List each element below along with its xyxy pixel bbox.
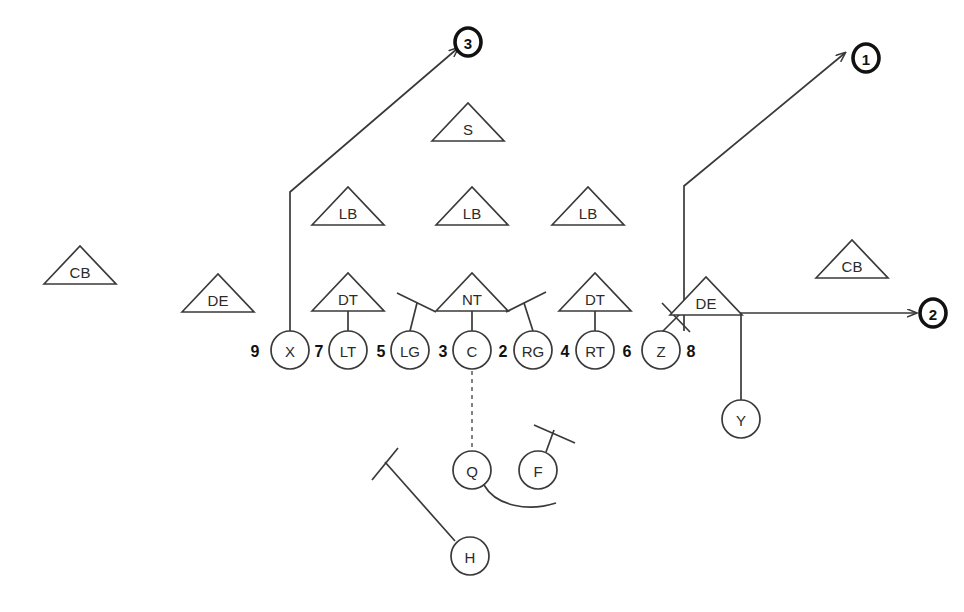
player-label: Q: [466, 463, 478, 480]
offense-right-guard[interactable]: RG: [514, 331, 552, 369]
defense-linebacker-left[interactable]: LB: [312, 187, 384, 225]
gap-number-2: 2: [499, 343, 508, 360]
play-diagram-canvas: CBDEDTNTDTDECBLBLBLBS XLTLGCRGRTZYQFH 97…: [0, 0, 964, 612]
marker-label: 2: [929, 306, 937, 323]
gap-number-7: 7: [315, 343, 324, 360]
player-label: H: [465, 549, 476, 566]
defense-tackle-left[interactable]: DT: [312, 273, 384, 311]
offense-left-tackle[interactable]: LT: [329, 331, 367, 369]
player-label: Y: [736, 412, 746, 429]
block-lt-on-dt: [327, 309, 369, 331]
gap-number-4: 4: [561, 343, 570, 360]
player-label: RG: [522, 343, 545, 360]
offense-z-receiver[interactable]: Z: [642, 331, 680, 369]
offense-x-receiver[interactable]: X: [271, 331, 309, 369]
defender-label: LB: [339, 205, 357, 222]
defender-label: DE: [208, 292, 229, 309]
offense-layer: XLTLGCRGRTZYQFH: [271, 331, 760, 575]
defense-cornerback-right[interactable]: CB: [816, 240, 888, 278]
offense-center[interactable]: C: [453, 331, 491, 369]
defense-end-right[interactable]: DE: [670, 277, 742, 315]
route-y-to-marker-2: [741, 313, 916, 400]
route-marker-1[interactable]: 1: [853, 44, 879, 72]
defender-label: DE: [696, 295, 717, 312]
gap-number-5: 5: [377, 343, 386, 360]
block-rt-on-dt: [574, 309, 616, 331]
defender-label: LB: [579, 205, 597, 222]
route-x-to-marker-3: [290, 48, 458, 331]
defender-label: S: [463, 121, 473, 138]
marker-label: 1: [862, 51, 870, 68]
offense-left-guard[interactable]: LG: [391, 331, 429, 369]
defense-end-left[interactable]: DE: [182, 274, 254, 312]
defense-linebacker-right[interactable]: LB: [552, 187, 624, 225]
defender-label: DT: [585, 291, 605, 308]
gap-number-3: 3: [439, 343, 448, 360]
block-lg-angled: [397, 293, 436, 331]
player-label: C: [467, 343, 478, 360]
player-label: F: [533, 463, 542, 480]
defense-layer: CBDEDTNTDTDECBLBLBLBS: [44, 103, 888, 315]
offense-quarterback[interactable]: Q: [453, 451, 491, 489]
block-h-angled: [372, 448, 455, 541]
block-f-angled: [534, 425, 575, 452]
offense-h-back[interactable]: H: [451, 537, 489, 575]
marker-label: 3: [464, 35, 472, 52]
defense-cornerback-left[interactable]: CB: [44, 246, 116, 284]
defense-nose-tackle[interactable]: NT: [436, 273, 508, 311]
route-marker-3[interactable]: 3: [455, 28, 481, 56]
player-label: LG: [400, 343, 420, 360]
player-label: RT: [585, 343, 605, 360]
gap-number-8: 8: [687, 343, 696, 360]
defense-tackle-right[interactable]: DT: [559, 273, 631, 311]
defender-label: CB: [842, 258, 863, 275]
block-c-on-nt: [451, 309, 493, 331]
block-rg-angled: [506, 292, 546, 331]
offense-fullback[interactable]: F: [519, 451, 557, 489]
offense-y-receiver[interactable]: Y: [722, 400, 760, 438]
route-marker-2[interactable]: 2: [920, 299, 946, 327]
defense-safety[interactable]: S: [432, 103, 504, 141]
defense-linebacker-middle[interactable]: LB: [436, 187, 508, 225]
player-label: Z: [656, 343, 665, 360]
defender-label: CB: [70, 264, 91, 281]
gap-number-6: 6: [623, 343, 632, 360]
offense-right-tackle[interactable]: RT: [576, 331, 614, 369]
defender-label: LB: [463, 205, 481, 222]
player-label: LT: [340, 343, 356, 360]
defender-label: DT: [338, 291, 358, 308]
gap-number-9: 9: [251, 343, 260, 360]
defender-label: NT: [462, 291, 482, 308]
player-label: X: [285, 343, 295, 360]
